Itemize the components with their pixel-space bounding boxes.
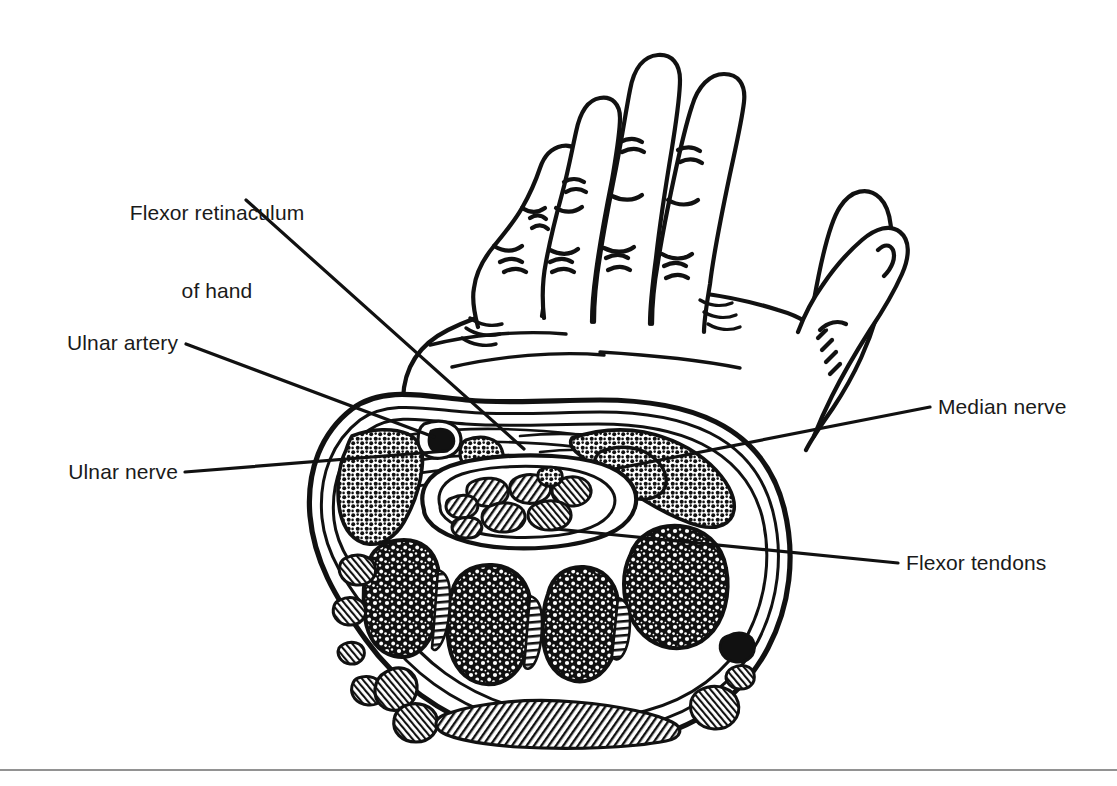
anatomical-figure: Flexor retinaculum of hand Ulnar artery … [0,0,1117,786]
thumb [798,228,908,436]
label-flexor-retinaculum: Flexor retinaculum of hand [118,148,316,356]
label-ulnar-artery: Ulnar artery [40,330,178,356]
ulnar-artery-leader [186,344,434,437]
anatomy-illustration [0,0,1117,786]
label-flexor-retinaculum-line1: Flexor retinaculum [118,200,316,226]
label-ulnar-nerve: Ulnar nerve [40,459,178,485]
label-median-nerve: Median nerve [938,394,1108,420]
label-flexor-retinaculum-line2: of hand [118,278,316,304]
label-flexor-tendons: Flexor tendons [906,550,1096,576]
